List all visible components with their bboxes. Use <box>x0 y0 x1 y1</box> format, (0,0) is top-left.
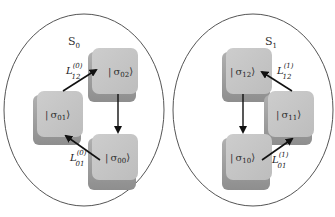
state-cube-s12: |σ12⟩ <box>222 48 272 102</box>
state-cube-s02: |σ02⟩ <box>88 48 138 102</box>
state-cube-s01: |σ01⟩ <box>33 91 83 145</box>
set-s0-label: S0 <box>68 35 80 50</box>
set-s0-ellipse <box>4 14 164 206</box>
transition-label-L12-0: L(0)12 <box>65 62 83 81</box>
set-s1: S1 |σ12⟩ |σ11⟩ |σ10⟩ L(1)12 L(1)01 <box>173 14 333 206</box>
transition-label-L12-1: L(1)12 <box>276 62 294 81</box>
set-s1-label: S1 <box>265 35 277 50</box>
state-cube-s10: |σ10⟩ <box>222 134 272 190</box>
diagram-canvas: S0 |σ01⟩ |σ02⟩ |σ00⟩ L(0)12 L(0)01 S1 <box>0 0 335 217</box>
state-cube-s00: |σ00⟩ <box>88 134 138 190</box>
transition-label-L01-1: L(1)01 <box>271 151 289 170</box>
state-cube-s11: |σ11⟩ <box>264 91 314 145</box>
set-s0: S0 |σ01⟩ |σ02⟩ |σ00⟩ L(0)12 L(0)01 <box>4 14 164 206</box>
transition-label-L01-0: L(0)01 <box>69 149 87 168</box>
